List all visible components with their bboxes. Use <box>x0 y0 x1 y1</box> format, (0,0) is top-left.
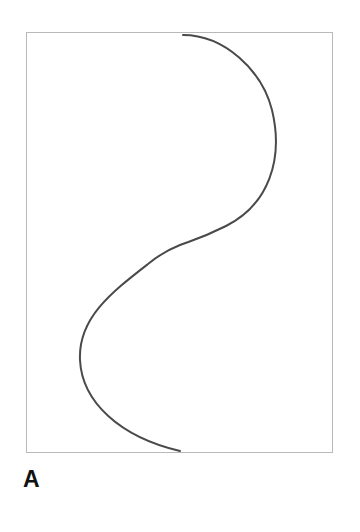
figure-panel: A <box>0 0 360 532</box>
figure-canvas <box>0 0 360 532</box>
panel-label-a: A <box>23 468 40 491</box>
plot-border-rectangle <box>27 33 333 453</box>
